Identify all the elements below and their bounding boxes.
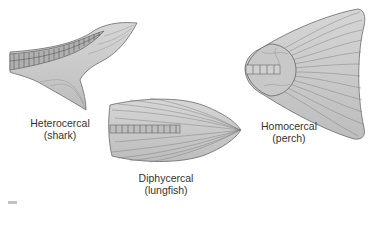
diphycercal-tail-illustration [109, 98, 241, 162]
cropped-caption-mark [8, 201, 17, 204]
heterocercal-name: Heterocercal [28, 117, 92, 129]
diphycercal-label: Diphycercal (lungfish) [135, 172, 197, 196]
diphycercal-name: Diphycercal [135, 172, 197, 184]
heterocercal-label: Heterocercal (shark) [28, 117, 92, 141]
heterocercal-example: (shark) [28, 129, 92, 141]
homocercal-label: Homocercal (perch) [257, 120, 321, 144]
diphycercal-example: (lungfish) [135, 184, 197, 196]
homocercal-example: (perch) [257, 132, 321, 144]
homocercal-name: Homocercal [257, 120, 321, 132]
heterocercal-tail-illustration [10, 23, 137, 110]
